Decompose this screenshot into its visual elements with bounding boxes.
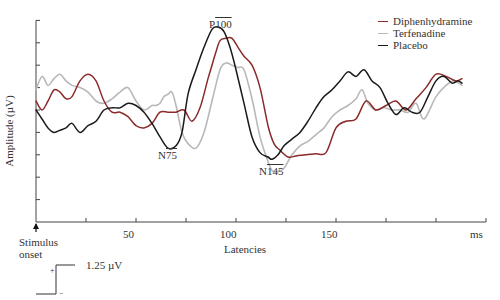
annotation-n145-letter: N [259,165,267,177]
series-line-diphenhydramine [36,38,462,158]
legend: Diphenhydramine Terfenadine Placebo [378,15,472,51]
legend-label: Diphenhydramine [393,15,472,27]
arrow-head-icon [33,223,39,229]
annotation-p100: P100 [209,18,232,30]
axes [33,20,486,232]
scale-minus-sign: − [59,290,64,298]
y-axis-label: Amplitude (µV) [3,86,15,176]
x-unit-label: ms [470,228,483,240]
annotation-n145: N145 [259,165,283,177]
x-tick-label-50: 50 [123,228,134,240]
x-axis-label: Latencies [224,243,266,255]
legend-item-terfenadine: Terfenadine [378,27,472,39]
x-tick-label-100: 100 [220,228,237,240]
legend-swatch-icon [378,45,388,46]
annotation-n145-number: 145 [267,165,284,177]
stimulus-label-line2: onset [19,248,58,260]
legend-item-diphenhydramine: Diphenhydramine [378,15,472,27]
legend-swatch-icon [378,33,388,34]
legend-label: Placebo [393,39,428,51]
series-line-terfenadine [36,63,462,172]
annotation-n75: N75 [158,149,177,161]
legend-swatch-icon [378,21,388,22]
x-tick-label-150: 150 [321,228,338,240]
annotation-p100-number: 100 [215,18,232,30]
scale-plus-sign: + [50,266,55,275]
scale-bar [36,265,75,294]
annotation-n75-letter: N [158,149,166,161]
scale-bar-label: 1.25 µV [86,259,122,271]
stimulus-label-line1: Stimulus [19,236,58,248]
stimulus-onset-label: Stimulus onset [19,236,58,260]
legend-item-placebo: Placebo [378,39,472,51]
legend-label: Terfenadine [393,27,445,39]
annotation-n75-number: 75 [166,149,177,161]
